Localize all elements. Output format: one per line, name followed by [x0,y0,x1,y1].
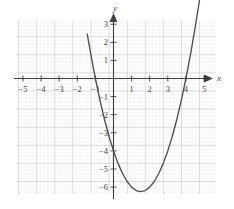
y-tick-label--4: −4 [99,146,109,156]
y-tick-label-1: 1 [104,55,108,65]
grid-group [0,0,234,209]
x-tick-label-5: 5 [202,84,206,94]
x-tick-label-1: 1 [129,84,133,94]
graph-canvas: −5 −4 −3 −2 −1 1 2 3 4 5 3 2 1 −1 −2 −3 … [0,0,234,209]
y-axis-label: y [112,3,117,13]
grid-major-lines [0,0,234,209]
y-tick-label--5: −5 [99,164,108,174]
y-tick-label--6: −6 [99,182,108,192]
x-tick-label-2: 2 [148,84,152,94]
x-tick-label--3: −3 [55,84,64,94]
x-tick-label--4: −4 [37,84,47,94]
x-axis-label: x [216,73,221,83]
y-tick-label-2: 2 [104,37,108,47]
x-tick-label-3: 3 [166,84,170,94]
graph-figure: −5 −4 −3 −2 −1 1 2 3 4 5 3 2 1 −1 −2 −3 … [0,0,234,209]
x-tick-label--5: −5 [18,84,27,94]
x-tick-label--2: −2 [73,84,82,94]
y-tick-label-3: 3 [104,19,108,29]
